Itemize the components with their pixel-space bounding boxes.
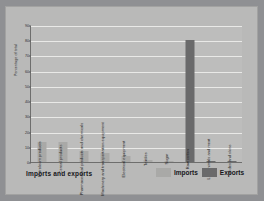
y-tick-label: 0 (27, 161, 29, 165)
legend-item-exports: Exports (202, 168, 244, 177)
bar-category-group: Pharmaceutical products and chemicals (73, 26, 94, 162)
y-tick-label: 80 (25, 39, 29, 43)
category-label: Sugar (164, 154, 169, 165)
bar-category-group: Raw cotton (179, 26, 200, 162)
legend-swatch-imports (156, 168, 171, 177)
bar-category-group: Sugar (158, 26, 179, 162)
chart-legend: Imports Exports (156, 168, 244, 177)
chart-figure: 0102030405060708090 Percentage of total … (6, 7, 257, 194)
y-axis-title: Percentage of total (14, 44, 18, 76)
category-label: Pharmaceutical products and chemicals (79, 123, 84, 196)
y-tick-label: 60 (25, 70, 29, 74)
bar-category-group: Hides and skins (222, 26, 243, 162)
legend-label-imports: Imports (174, 169, 198, 176)
y-tick-label: 10 (25, 146, 29, 150)
legend-swatch-exports (202, 168, 217, 177)
legend-label-exports: Exports (220, 169, 244, 176)
bar-category-group: Petroleum products (31, 26, 52, 162)
plot-area: 0102030405060708090 Percentage of total … (30, 26, 242, 163)
y-tick-label: 20 (25, 131, 29, 135)
category-label: Raw cotton (185, 149, 190, 170)
bar-category-group: Textiles (137, 26, 158, 162)
y-tick-label: 50 (25, 85, 29, 89)
legend-item-imports: Imports (156, 168, 198, 177)
bar-category-group: Machinery and transportation equipment (95, 26, 116, 162)
bar-series-container: Petroleum productsCereal productsPharmac… (31, 26, 242, 162)
chart-title: Imports and exports (26, 170, 92, 177)
category-label: Machinery and transportation equipment (100, 122, 105, 196)
y-tick-mark (29, 163, 31, 164)
y-tick-label: 40 (25, 100, 29, 104)
y-tick-label: 30 (25, 115, 29, 119)
bar-exports (185, 40, 194, 162)
y-tick-label: 70 (25, 54, 29, 58)
bar-category-group: Cereal products (52, 26, 73, 162)
category-label: Textiles (143, 152, 148, 166)
bar-category-group: Electrical equipment (116, 26, 137, 162)
y-tick-label: 90 (25, 24, 29, 28)
bar-category-group: Live animals and meat (201, 26, 222, 162)
category-label: Electrical equipment (121, 140, 126, 177)
